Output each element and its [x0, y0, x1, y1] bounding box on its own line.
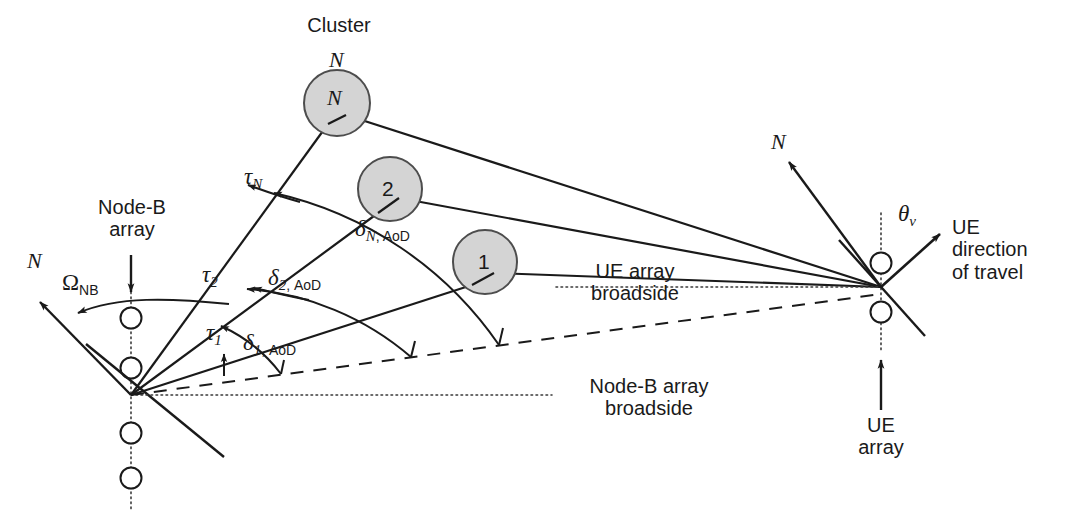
delta-1-aod-label: δ1, AoD [243, 330, 296, 356]
ue-array-label: UEarray [831, 414, 931, 459]
delta-2-subscript-aod: , AoD [286, 277, 321, 293]
ray-node-b-to-cluster-N [131, 124, 328, 395]
tau-glyph-2: τ [202, 262, 210, 287]
cluster-circle-2-label: 2 [382, 177, 394, 201]
cluster-label: Cluster [284, 14, 394, 36]
node-b-array-label-line2: array [109, 218, 155, 240]
ue-direction-line1: UE [952, 216, 980, 238]
tau-n-label: τN [244, 164, 262, 190]
delta-1-subscript-aod: , AoD [261, 342, 296, 358]
tau-2-subscript: 2 [210, 274, 218, 290]
ue-direction-of-travel-label: UEdirectionof travel [952, 216, 1028, 283]
node-b-array-label-line1: Node-B [98, 196, 166, 218]
theta-glyph: θ [898, 201, 909, 226]
ray-node-b-to-cluster-1 [131, 285, 472, 395]
omega-nb-arc [78, 300, 229, 313]
delta-glyph-2: δ [268, 265, 279, 290]
tau-2-label: τ2 [202, 262, 218, 288]
figure-canvas: Cluster N N 2 1 Node-Barray N ΩNB τN τ2 … [0, 0, 1068, 519]
delta-n-subscript-aod: , AoD [376, 228, 410, 244]
nodeb-broadside-line1: Node-B array [590, 375, 709, 397]
delta-glyph-1: δ [243, 330, 254, 355]
delta-2-aod-label: δ2, AoD [268, 265, 321, 291]
tau-1-subscript: 1 [214, 332, 222, 348]
tau-1-label: τ1 [206, 320, 222, 346]
delta-glyph-n: δ [355, 216, 366, 241]
theta-v-subscript: v [909, 213, 916, 229]
ue-array-line1: UE [867, 414, 895, 436]
omega-nb-label: ΩNB [62, 270, 99, 296]
delta-n-subscript-index: N [366, 228, 376, 244]
ue-north-label: N [771, 130, 786, 155]
node-b-array-broadside-label: Node-B arraybroadside [554, 375, 744, 420]
ue-array-line2: array [858, 436, 904, 458]
tau-glyph-n: τ [244, 164, 252, 189]
cluster-n-above-label: N [329, 48, 344, 73]
omega-glyph: Ω [62, 270, 79, 295]
ue-direction-line3: of travel [952, 261, 1023, 283]
omega-nb-subscript: NB [79, 282, 98, 298]
ue-north-arrow [789, 162, 881, 287]
tau-n-subscript: N [252, 176, 262, 192]
nodeb-broadside-line2: broadside [605, 397, 693, 419]
theta-v-label: θv [898, 201, 916, 227]
cluster-circle-N-label: N [327, 86, 342, 111]
ue-broadside-line2: broadside [591, 282, 679, 304]
delta-n-aod-label: δN, AoD [355, 216, 410, 242]
node-b-array-label: Node-Barray [62, 196, 202, 241]
ue-direction-line2: direction [952, 238, 1028, 260]
tau-glyph-1: τ [206, 320, 214, 345]
cluster-circle-1-label: 1 [478, 250, 490, 274]
ue-array-broadside-label: UE arraybroadside [560, 260, 710, 305]
node-b-north-label: N [27, 249, 42, 274]
node-b-north-arrow [40, 302, 131, 395]
ue-broadside-line1: UE array [596, 260, 675, 282]
